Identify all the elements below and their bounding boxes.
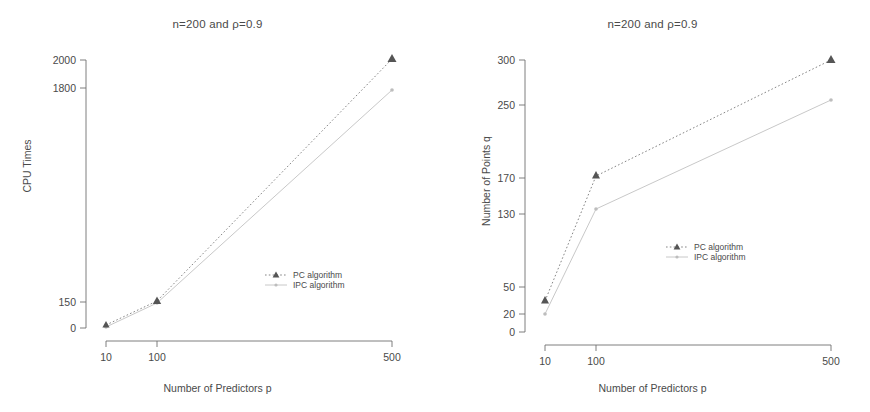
x-axis-title: Number of Predictors p: [0, 382, 435, 394]
figure-container: n=200 and ρ=0.9 2000 1800 150 0: [0, 0, 870, 412]
plot-area-number-of-points: 300 250 170 130 50 20 0 10 100 500: [435, 0, 870, 412]
y-tick-label: 150: [58, 296, 76, 308]
y-tick-label: 1800: [53, 82, 77, 94]
data-point-marker: [541, 296, 549, 304]
x-tick-label: 10: [539, 355, 551, 367]
legend-marker-ipc-icon: [274, 283, 277, 286]
x-tick-label: 10: [100, 351, 112, 363]
legend-entry-ipc[interactable]: IPC algorithm: [265, 280, 345, 290]
legend-label-ipc: IPC algorithm: [293, 280, 345, 290]
data-point-marker: [390, 88, 394, 92]
x-tick-label: 500: [822, 355, 840, 367]
series-pc-cpu-times: [102, 54, 396, 328]
y-tick-label: 300: [497, 54, 515, 66]
y-tick-label: 20: [503, 308, 515, 320]
x-tick-label: 100: [148, 351, 166, 363]
legend-number-of-points[interactable]: PC algorithm IPC algorithm: [666, 242, 746, 262]
y-tick-label: 2000: [53, 54, 77, 66]
y-axis-cpu-times: 2000 1800 150 0: [53, 54, 86, 334]
x-tick-label: 500: [383, 351, 401, 363]
panel-cpu-times: n=200 and ρ=0.9 2000 1800 150 0: [0, 0, 435, 412]
data-point-marker: [388, 54, 397, 62]
x-tick-label: 100: [587, 355, 605, 367]
y-tick-label: 0: [70, 322, 76, 334]
x-axis-title: Number of Predictors p: [435, 382, 870, 394]
legend-marker-pc-icon: [273, 272, 280, 278]
legend-marker-pc-icon: [674, 244, 681, 250]
data-point-marker: [102, 321, 109, 328]
legend-entry-pc[interactable]: PC algorithm: [265, 270, 342, 280]
panel-number-of-points: n=200 and ρ=0.9 300 250 170 130 50 20 0: [435, 0, 870, 412]
legend-entry-pc[interactable]: PC algorithm: [666, 242, 743, 252]
legend-label-ipc: IPC algorithm: [694, 252, 746, 262]
data-point-marker: [594, 207, 598, 211]
y-axis-title: Number of Points q: [480, 106, 492, 256]
series-ipc-cpu-times: [104, 88, 394, 329]
y-axis-title: CPU Times: [21, 106, 33, 226]
legend-marker-ipc-icon: [675, 255, 678, 258]
x-axis-number-of-points: 10 100 500: [539, 345, 840, 367]
legend-label-pc: PC algorithm: [293, 270, 342, 280]
data-point-marker: [829, 98, 833, 102]
series-ipc-number-of-points: [543, 98, 833, 316]
plot-area-cpu-times: 2000 1800 150 0 10 100 500: [0, 0, 435, 412]
x-axis-cpu-times: 10 100 500: [100, 341, 401, 363]
y-tick-label: 130: [497, 208, 515, 220]
y-tick-label: 50: [503, 281, 515, 293]
y-tick-label: 0: [509, 326, 515, 338]
data-point-marker: [543, 312, 547, 316]
legend-label-pc: PC algorithm: [694, 242, 743, 252]
legend-entry-ipc[interactable]: IPC algorithm: [666, 252, 746, 262]
y-tick-label: 170: [497, 172, 515, 184]
series-pc-number-of-points: [541, 55, 836, 304]
y-tick-label: 250: [497, 99, 515, 111]
legend-cpu-times[interactable]: PC algorithm IPC algorithm: [265, 270, 345, 290]
y-axis-number-of-points: 300 250 170 130 50 20 0: [497, 54, 525, 338]
data-point-marker: [827, 55, 836, 63]
